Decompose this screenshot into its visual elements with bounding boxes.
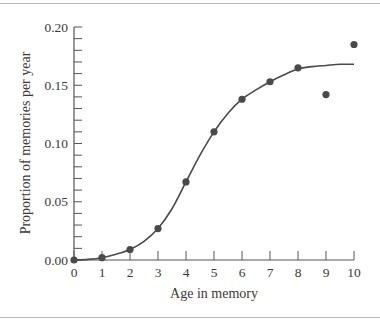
x-tick-label: 2 — [127, 265, 134, 280]
x-tick-label: 1 — [99, 265, 106, 280]
data-point — [294, 64, 301, 71]
x-tick-label: 10 — [347, 265, 361, 280]
x-axis-title: Age in memory — [170, 286, 258, 301]
x-tick-label: 6 — [239, 265, 246, 280]
x-tick-label: 7 — [267, 265, 274, 280]
y-tick-label: 0.05 — [44, 194, 68, 209]
x-tick-label: 8 — [295, 265, 302, 280]
y-tick-label: 0.00 — [44, 253, 68, 268]
x-tick-label: 9 — [323, 265, 330, 280]
y-tick-label: 0.10 — [44, 136, 68, 151]
x-tick-label: 0 — [71, 265, 78, 280]
y-axis-title: Proportion of memories per year — [18, 51, 33, 234]
data-point — [182, 178, 189, 185]
data-point — [238, 96, 245, 103]
fitted-curve — [74, 64, 354, 260]
data-point — [126, 246, 133, 253]
fitted-curve-path — [74, 64, 354, 260]
data-point — [350, 41, 357, 48]
data-points — [70, 41, 357, 264]
x-tick-label: 4 — [183, 265, 190, 280]
data-point — [210, 128, 217, 135]
chart: 0.000.050.100.150.20 012345678910 Age in… — [0, 0, 380, 322]
data-point — [154, 225, 161, 232]
data-point — [98, 254, 105, 261]
y-axis: 0.000.050.100.150.20 — [44, 20, 82, 268]
x-tick-label: 5 — [211, 265, 218, 280]
data-point — [70, 256, 77, 263]
y-tick-label: 0.15 — [44, 78, 68, 93]
x-tick-label: 3 — [155, 265, 162, 280]
y-tick-label: 0.20 — [44, 20, 68, 35]
data-point — [266, 78, 273, 85]
data-point — [322, 91, 329, 98]
